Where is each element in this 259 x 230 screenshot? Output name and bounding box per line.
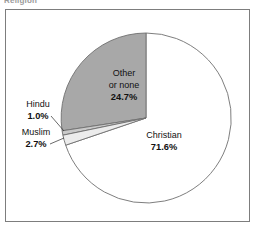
chart-frame: Other or none 24.7% Christian 71.6% Hind…: [5, 9, 250, 222]
leader-line-muslim: [50, 138, 64, 144]
slice-label-christian-name: Christian: [146, 130, 182, 140]
slice-label-other-line1: Other: [113, 68, 136, 78]
slice-label-christian-percent: 71.6%: [151, 142, 178, 152]
slice-label-other-line2: or none: [109, 80, 140, 90]
pie-chart: Other or none 24.7% Christian 71.6% Hind…: [6, 10, 249, 221]
slice-label-hindu-name: Hindu: [26, 99, 50, 109]
clipped-heading-text: Religion: [4, 0, 64, 5]
pie-chart-svg: Other or none 24.7% Christian 71.6% Hind…: [6, 10, 251, 223]
slice-label-muslim-percent: 2.7%: [25, 139, 47, 149]
slice-label-other-percent: 24.7%: [111, 92, 138, 102]
slice-label-hindu-percent: 1.0%: [27, 111, 49, 121]
slice-label-muslim-name: Muslim: [22, 127, 51, 137]
